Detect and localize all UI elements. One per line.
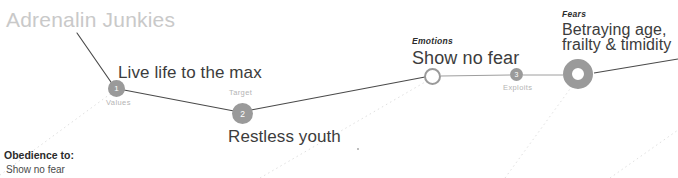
node-number-values: 1 xyxy=(114,84,118,93)
node-circle-emotions[interactable] xyxy=(424,68,441,85)
node-caption-emotions: Emotions xyxy=(412,37,453,47)
page-title: Adrenalin Junkies xyxy=(6,8,175,32)
node-circle-target[interactable]: 2 xyxy=(232,103,253,124)
node-caption-fears: Fears xyxy=(562,10,586,20)
stage-label-values: Values xyxy=(106,99,131,107)
segment-fears-to-exit xyxy=(594,59,678,73)
node-headline-emotions: Show no fear xyxy=(412,48,519,68)
node-circle-exploits[interactable]: 3 xyxy=(510,68,523,81)
node-number-exploits: 3 xyxy=(515,71,519,78)
node-headline-fears-line2: frailty & timidity xyxy=(562,36,671,54)
dotted-guide-far-right xyxy=(610,130,678,178)
segment-node1-to-node2 xyxy=(124,90,234,111)
node-circle-fears[interactable] xyxy=(563,59,593,89)
node-circle-values[interactable]: 1 xyxy=(108,80,125,97)
stage-label-exploits: Exploits xyxy=(503,84,532,92)
footnote-body: Show no fear xyxy=(6,164,65,175)
dotted-guide-right xyxy=(505,78,578,178)
segment-emotions-to-exploits xyxy=(441,75,510,76)
node-number-target: 2 xyxy=(240,109,245,119)
diagram-canvas: Adrenalin Junkies Live life to the max 1… xyxy=(0,0,678,178)
footnote-title: Obedience to: xyxy=(4,150,74,162)
stage-label-target: Target xyxy=(229,89,252,97)
segment-node2-to-emotions xyxy=(251,77,425,110)
node-headline-values: Live life to the max xyxy=(118,63,262,82)
segment-entry-to-node1 xyxy=(77,33,113,85)
stray-dot-marker xyxy=(357,148,359,150)
node-headline-target: Restless youth xyxy=(228,127,341,146)
